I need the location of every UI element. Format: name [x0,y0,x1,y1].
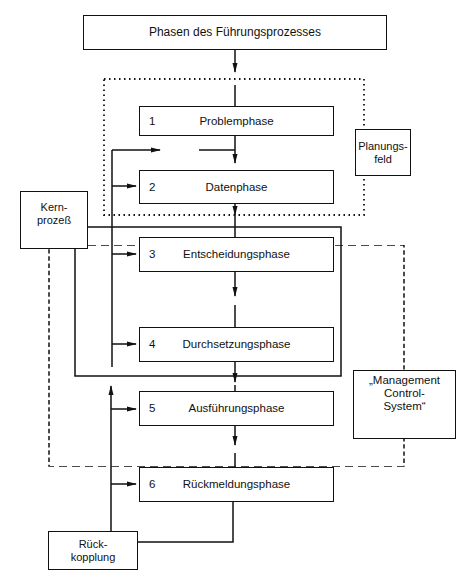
label-line: feld [374,153,392,166]
phase-label: Entscheidungsphase [140,248,333,261]
management-control-system-box: „Management Control- System“ [353,370,456,439]
phase-number: 6 [149,478,155,491]
phase-label: Rückmeldungsphase [140,478,333,491]
label-line: „Management [369,374,440,387]
label-line: kopplung [71,551,116,564]
phase-number: 3 [149,248,155,261]
phase-number: 5 [149,402,155,415]
kernprozess-box: Kern- prozeß [20,191,88,249]
phase-number: 2 [149,181,155,194]
title-text: Phasen des Führungsprozesses [149,26,321,39]
rueckkopplung-box: Rück- kopplung [48,531,138,570]
phase-number: 4 [149,338,155,351]
label-line: System“ [383,400,425,413]
phase-number: 1 [149,115,155,128]
phase-label: Durchsetzungsphase [140,338,333,351]
phase-box-3: 3 Entscheidungsphase [139,237,334,272]
phase-box-2: 2 Datenphase [139,170,334,204]
label-line: Kern- [41,201,68,214]
phase-box-4: 4 Durchsetzungsphase [139,327,334,362]
phase-label: Problemphase [140,115,333,128]
label-line: Rück- [79,538,108,551]
phase-label: Datenphase [140,181,333,194]
phase-box-5: 5 Ausführungsphase [139,391,334,426]
planungsfeld-box: Planungs- feld [355,129,411,176]
label-line: Control- [384,387,425,400]
phase-box-6: 6 Rückmeldungsphase [139,467,334,502]
label-line: prozeß [37,214,71,227]
phase-label: Ausführungsphase [140,402,333,415]
phase-box-1: 1 Problemphase [139,106,334,136]
label-line: Planungs- [358,140,408,153]
title-box: Phasen des Führungsprozesses [83,15,387,50]
